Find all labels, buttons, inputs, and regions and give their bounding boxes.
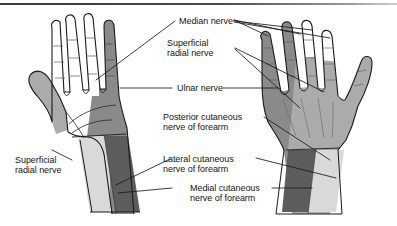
label-ulnar-nerve: Ulnar nerve [177, 83, 223, 94]
right-hand-dorsal-view [250, 10, 390, 225]
left-hand-palmar-view [20, 10, 159, 220]
label-superficial-radial-nerve-left-line1: Superficial [15, 155, 56, 166]
label-medial-cutaneous-nerve-line1: Medial cutaneous [190, 183, 260, 194]
label-superficial-radial-nerve-line1: Superficial [167, 38, 208, 49]
label-median-nerve: Median nerve [179, 16, 233, 27]
label-posterior-cutaneous-nerve-line1: Posterior cutaneous [163, 112, 242, 123]
label-posterior-cutaneous-nerve-line2: nerve of forearm [163, 122, 228, 133]
label-lateral-cutaneous-nerve-line2: nerve of forearm [163, 164, 228, 175]
label-superficial-radial-nerve-line2: radial nerve [167, 48, 213, 59]
label-lateral-cutaneous-nerve-line1: Lateral cutaneous [163, 154, 234, 165]
nerve-distribution-figure: Median nerve Superficial radial nerve Ul… [0, 0, 397, 226]
label-medial-cutaneous-nerve-line2: nerve of forearm [190, 193, 255, 204]
label-superficial-radial-nerve-left-line2: radial nerve [15, 165, 61, 176]
